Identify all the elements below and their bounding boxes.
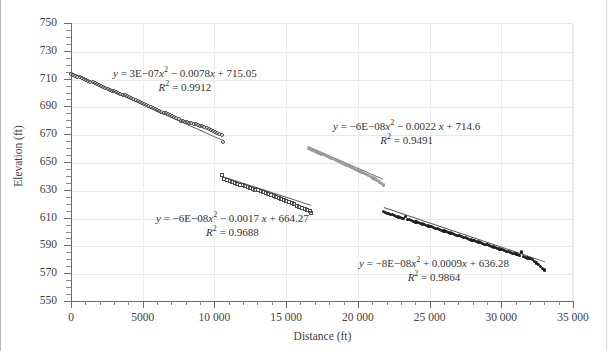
data-point xyxy=(520,250,523,253)
annotation-equation-segment-4: y = −8E−08x2 + 0.0009x + 636.28 R2 = 0.9… xyxy=(359,256,509,284)
equation-text: y = −6E−08x2 − 0.0022 x + 714.6 xyxy=(333,119,480,133)
annotation-equation-segment-3: y = −6E−08x2 − 0.0017 x + 664.27 R2 = 0.… xyxy=(156,211,309,239)
equation-text: y = −8E−08x2 + 0.0009x + 636.28 xyxy=(359,256,509,270)
r-squared-text: R2 = 0.9688 xyxy=(156,225,309,239)
equation-text: y = −6E−08x2 − 0.0017 x + 664.27 xyxy=(156,211,309,225)
data-point xyxy=(543,268,546,271)
equation-text: y = 3E−07x2 − 0.0078x + 715.05 xyxy=(113,66,257,80)
data-series-segment-4 xyxy=(1,0,606,351)
r-squared-text: R2 = 0.9491 xyxy=(333,133,480,147)
annotation-equation-segment-2: y = −6E−08x2 − 0.0022 x + 714.6 R2 = 0.9… xyxy=(333,119,480,147)
chart-figure: 550570590610630650670690710730750 050001… xyxy=(0,0,607,351)
annotation-equation-segment-1: y = 3E−07x2 − 0.0078x + 715.05 R2 = 0.99… xyxy=(113,66,257,94)
r-squared-text: R2 = 0.9912 xyxy=(113,80,257,94)
r-squared-text: R2 = 0.9864 xyxy=(359,270,509,284)
data-point xyxy=(518,254,521,257)
